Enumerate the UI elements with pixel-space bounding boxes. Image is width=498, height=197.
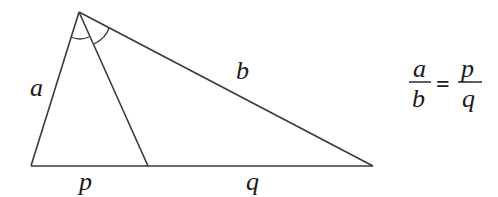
ratio-formula: a b = p q [409,54,482,113]
label-p: p [77,167,92,196]
formula-lhs-denominator: b [412,84,425,113]
formula-lhs-numerator: a [413,54,426,83]
angle-arc-right [94,28,109,44]
diagram-canvas: a b p q a b = p q [0,0,498,197]
formula-equals: = [436,71,450,97]
formula-rhs-denominator: q [462,84,475,113]
label-q: q [246,167,259,196]
triangle-diagram: a b p q a b = p q [0,0,498,197]
label-b: b [236,56,249,85]
angle-bisector-line [79,12,148,166]
label-a: a [30,73,43,102]
formula-rhs-numerator: p [459,54,474,83]
side-b-line [79,12,373,166]
angle-arc-left [71,37,89,39]
